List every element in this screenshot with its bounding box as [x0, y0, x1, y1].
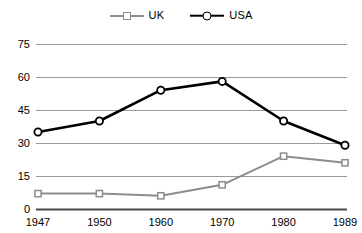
data-point-uk-1970 [219, 182, 225, 188]
data-point-uk-1989 [342, 160, 348, 166]
data-point-usa-1950 [96, 117, 103, 124]
series-line-usa [38, 81, 345, 145]
data-point-uk-1980 [281, 153, 287, 159]
x-tick-label: 1980 [262, 217, 306, 228]
data-point-usa-1980 [280, 117, 287, 124]
plot-svg [0, 0, 362, 233]
y-tick-label: 45 [4, 105, 30, 116]
data-point-usa-1960 [157, 87, 164, 94]
y-tick-label: 15 [4, 171, 30, 182]
data-point-uk-1960 [158, 193, 164, 199]
x-tick-label: 1950 [77, 217, 121, 228]
data-point-uk-1947 [35, 191, 41, 197]
data-point-uk-1950 [96, 191, 102, 197]
line-chart: UK USA 01530456075 194719501960197019801… [0, 0, 362, 233]
x-tick-label: 1947 [16, 217, 60, 228]
y-tick-label: 75 [4, 39, 30, 50]
y-tick-label: 0 [4, 204, 30, 215]
plot-area: 01530456075 194719501960197019801989 [0, 0, 362, 233]
x-tick-label: 1989 [323, 217, 362, 228]
x-tick-label: 1970 [200, 217, 244, 228]
data-point-usa-1947 [34, 128, 41, 135]
y-tick-label: 30 [4, 138, 30, 149]
series-layer [34, 78, 348, 199]
x-tick-label: 1960 [139, 217, 183, 228]
y-tick-label: 60 [4, 72, 30, 83]
data-point-usa-1989 [341, 142, 348, 149]
data-point-usa-1970 [219, 78, 226, 85]
